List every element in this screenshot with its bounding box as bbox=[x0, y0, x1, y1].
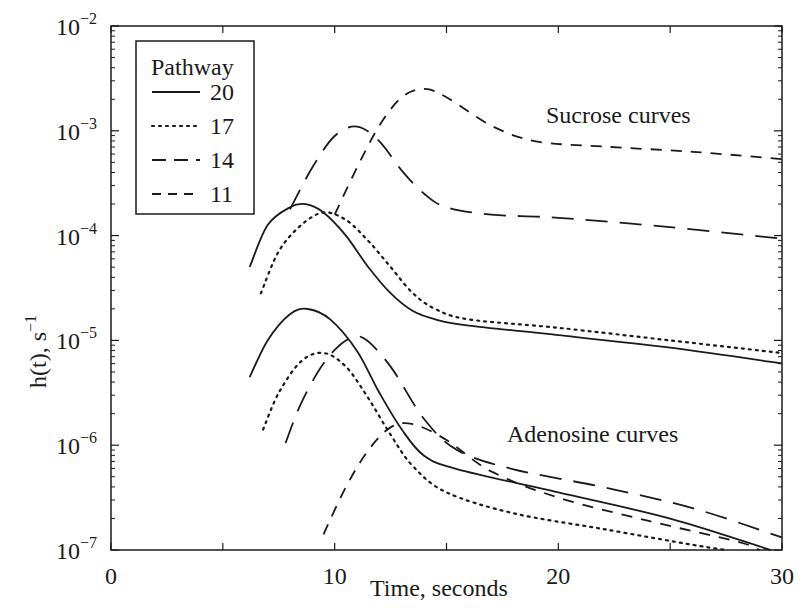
y-axis-title-main: h(t), s bbox=[25, 332, 51, 388]
svg-text:h(t), s−1: h(t), s−1 bbox=[22, 315, 51, 388]
y-axis-title-exponent: −1 bbox=[22, 315, 39, 332]
y-axis-title: h(t), s−1 bbox=[22, 315, 51, 388]
series-sucrose-pathway-20 bbox=[250, 204, 782, 364]
legend-label-20: 20 bbox=[210, 79, 234, 105]
y-tick-label: 10−6 bbox=[56, 429, 97, 459]
legend-label-11: 11 bbox=[210, 181, 233, 207]
annotation-sucrose-curves: Sucrose curves bbox=[546, 102, 691, 128]
y-tick-label: 10−2 bbox=[56, 10, 97, 40]
y-tick-label: 10−7 bbox=[56, 534, 97, 564]
x-tick-label: 0 bbox=[105, 563, 117, 589]
legend-title: Pathway bbox=[151, 54, 234, 80]
x-tick-label: 20 bbox=[546, 563, 570, 589]
legend-label-17: 17 bbox=[210, 113, 234, 139]
log-hazard-chart: 10−710−610−510−410−310−2 0102030 Time, s… bbox=[0, 0, 805, 613]
y-tick-label: 10−4 bbox=[56, 220, 97, 250]
annotation-adenosine-curves: Adenosine curves bbox=[507, 421, 678, 447]
legend-label-14: 14 bbox=[210, 147, 234, 173]
x-tick-label: 30 bbox=[770, 563, 794, 589]
series-adenosine-pathway-17 bbox=[263, 353, 726, 550]
data-series bbox=[250, 89, 782, 550]
legend: Pathway 20171411 bbox=[136, 41, 254, 214]
x-axis-title: Time, seconds bbox=[370, 575, 508, 601]
y-tick-label: 10−5 bbox=[56, 324, 97, 354]
series-sucrose-pathway-14 bbox=[290, 126, 782, 238]
y-tick-label: 10−3 bbox=[56, 115, 97, 145]
x-tick-label: 10 bbox=[323, 563, 347, 589]
